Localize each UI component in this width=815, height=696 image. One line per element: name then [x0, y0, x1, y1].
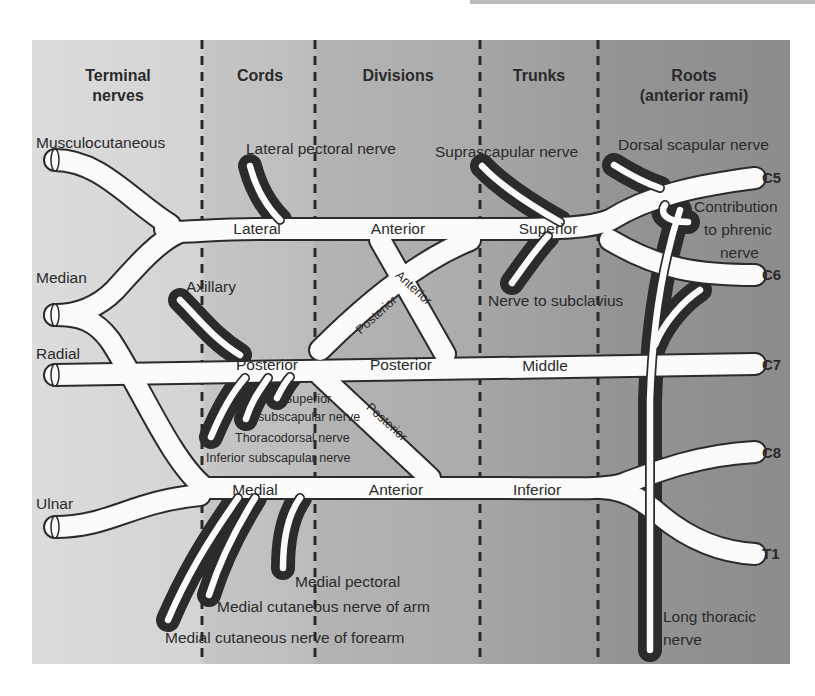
label-nerve-to-subclavius: Nerve to subclavius [488, 292, 624, 309]
label-axillary: Axillary [186, 278, 236, 295]
heading-trunks: Trunks [513, 67, 566, 84]
heading-roots-line1: Roots [671, 67, 716, 84]
label-suprascapular: Suprascapular nerve [435, 143, 578, 160]
label-long-thoracic-line2: nerve [663, 631, 702, 648]
root-c7: C7 [762, 356, 781, 373]
heading-terminal-line2: nerves [92, 87, 144, 104]
division-posterior-mid: Posterior [370, 356, 432, 373]
label-lateral-pectoral: Lateral pectoral nerve [246, 140, 396, 157]
root-t1: T1 [762, 545, 780, 562]
label-phrenic-line2: to phrenic [704, 221, 772, 238]
cord-posterior: Posterior [236, 356, 298, 373]
label-ulnar: Ulnar [36, 495, 73, 512]
division-anterior-bottom: Anterior [369, 481, 423, 498]
label-medial-cutaneous-arm: Medial cutaneous nerve of arm [217, 598, 430, 615]
label-median: Median [36, 269, 87, 286]
label-inferior-subscapular: Inferior subscapular nerve [206, 451, 351, 465]
heading-divisions: Divisions [362, 67, 433, 84]
label-superior-subscapular-line1: Superior [284, 392, 331, 406]
root-c8: C8 [762, 444, 781, 461]
root-c6: C6 [762, 266, 781, 283]
cord-medial: Medial [232, 481, 278, 498]
label-superior-subscapular-line2: subscapular nerve [258, 410, 360, 424]
heading-terminal-line1: Terminal [85, 67, 151, 84]
label-radial: Radial [36, 345, 80, 362]
label-medial-cutaneous-forearm: Medial cutaneous nerve of forearm [165, 629, 405, 646]
cord-lateral: Lateral [233, 220, 280, 237]
label-medial-pectoral: Medial pectoral [295, 573, 400, 590]
heading-cords: Cords [237, 67, 283, 84]
label-dorsal-scapular: Dorsal scapular nerve [618, 136, 769, 153]
label-long-thoracic-line1: Long thoracic [663, 608, 756, 625]
root-c5: C5 [762, 169, 781, 186]
label-phrenic-line1: Contribution [694, 198, 778, 215]
label-thoracodorsal: Thoracodorsal nerve [235, 431, 350, 445]
trunk-inferior: Inferior [513, 481, 561, 498]
trunk-middle: Middle [522, 357, 568, 374]
label-phrenic-line3: nerve [720, 244, 759, 261]
label-musculocutaneous: Musculocutaneous [36, 134, 165, 151]
trunk-superior: Superior [519, 220, 578, 237]
heading-roots-line2: (anterior rami) [640, 87, 748, 104]
division-anterior-top: Anterior [371, 220, 425, 237]
brachial-plexus-diagram: Terminal nerves Cords Divisions Trunks R… [0, 0, 815, 696]
